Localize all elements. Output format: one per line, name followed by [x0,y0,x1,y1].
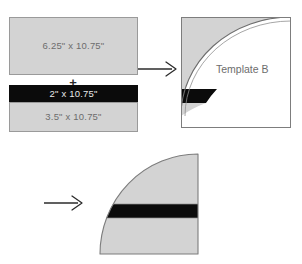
fabric-strip-bottom-label: 3.5" x 10.75" [45,112,101,122]
fabric-strip-middle-label: 2" x 10.75" [49,89,97,99]
arrow-right-icon-2 [42,192,90,214]
template-b-caption: Template B [216,64,269,75]
diagram-canvas: 6.25" x 10.75" + 2" x 10.75" 3.5" x 10.7… [0,0,302,264]
fabric-strip-bottom: 3.5" x 10.75" [9,102,138,132]
result-wedge-shape [98,152,202,256]
fabric-strip-top: 6.25" x 10.75" [9,17,138,75]
fabric-strip-middle: 2" x 10.75" [9,85,138,102]
fabric-strip-top-label: 6.25" x 10.75" [43,41,105,51]
arrow-right-icon-1 [136,58,184,80]
